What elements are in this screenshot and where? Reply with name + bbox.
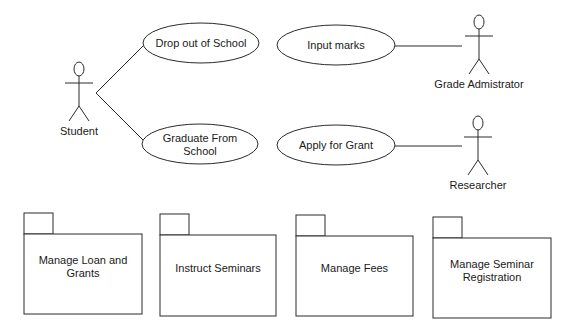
actor-head-icon bbox=[474, 15, 484, 29]
use-case-label: Drop out of School bbox=[155, 37, 246, 49]
package-label: Registration bbox=[463, 271, 522, 283]
package-label: Grants bbox=[66, 267, 100, 279]
package-body[interactable] bbox=[296, 236, 413, 316]
use-case-label: Input marks bbox=[307, 39, 365, 51]
package-body[interactable] bbox=[160, 235, 276, 316]
actor-left-leg-icon bbox=[468, 160, 478, 175]
actor-head-icon bbox=[74, 62, 84, 76]
actor-right-leg-icon bbox=[479, 59, 489, 74]
package-label: Manage Loan and bbox=[39, 254, 128, 266]
package-loan-grants[interactable]: Manage Loan andGrants bbox=[24, 213, 142, 314]
package-instruct-seminars[interactable]: Instruct Seminars bbox=[160, 214, 276, 316]
use-case-label: Graduate From bbox=[163, 132, 238, 144]
actor-left-leg-icon bbox=[69, 106, 79, 121]
uml-diagram-canvas: Drop out of SchoolGraduate FromSchoolInp… bbox=[0, 0, 576, 332]
use-case-drop-out[interactable]: Drop out of School bbox=[143, 23, 259, 63]
use-case-label: Apply for Grant bbox=[299, 139, 373, 151]
actor-head-icon bbox=[473, 116, 483, 130]
actor-right-leg-icon bbox=[478, 160, 488, 175]
package-label: Instruct Seminars bbox=[175, 262, 261, 274]
package-seminar-registration[interactable]: Manage SeminarRegistration bbox=[433, 217, 551, 318]
package-manage-fees[interactable]: Manage Fees bbox=[296, 215, 413, 316]
actor-left-leg-icon bbox=[469, 59, 479, 74]
actor-right-leg-icon bbox=[79, 106, 89, 121]
package-label: Manage Fees bbox=[321, 262, 389, 274]
actor-label: Grade Admistrator bbox=[434, 78, 524, 90]
actor-label: Researcher bbox=[450, 179, 507, 191]
associations bbox=[96, 45, 462, 146]
actor-student[interactable]: Student bbox=[60, 62, 98, 137]
actor-label: Student bbox=[60, 125, 98, 137]
actor-researcher[interactable]: Researcher bbox=[450, 116, 507, 191]
use-case-input-marks[interactable]: Input marks bbox=[277, 25, 395, 65]
use-case-apply-grant[interactable]: Apply for Grant bbox=[277, 125, 395, 165]
package-label: Manage Seminar bbox=[450, 258, 534, 270]
package-tab bbox=[296, 215, 325, 236]
association-student-graduate[interactable] bbox=[96, 93, 144, 141]
packages: Manage Loan andGrantsInstruct SeminarsMa… bbox=[24, 213, 551, 318]
use-case-label: School bbox=[183, 145, 217, 157]
package-tab bbox=[433, 217, 462, 238]
use-cases: Drop out of SchoolGraduate FromSchoolInp… bbox=[142, 23, 395, 165]
use-case-graduate[interactable]: Graduate FromSchool bbox=[142, 124, 258, 164]
package-tab bbox=[24, 213, 53, 234]
package-tab bbox=[160, 214, 189, 235]
actor-grade-admin[interactable]: Grade Admistrator bbox=[434, 15, 524, 90]
association-student-drop-out[interactable] bbox=[96, 45, 144, 93]
